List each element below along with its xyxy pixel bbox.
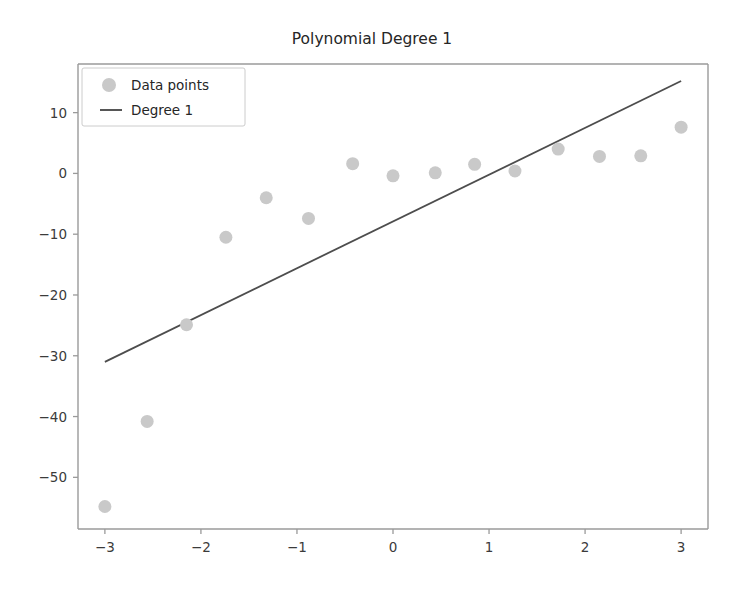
x-tick-label: 3 (677, 539, 686, 555)
x-tick-label: −2 (191, 539, 211, 555)
data-point-marker (634, 149, 647, 162)
data-point-marker (552, 143, 565, 156)
matplotlib-figure: Polynomial Degree 1 −3−2−10123 100−10−20… (0, 0, 735, 589)
x-tick-label: 1 (485, 539, 494, 555)
x-tick-label: −3 (95, 539, 115, 555)
data-point-marker (260, 191, 273, 204)
data-point-marker (141, 415, 154, 428)
data-point-marker (429, 166, 442, 179)
legend-marker-data-points-icon (102, 78, 116, 92)
data-point-marker (180, 318, 193, 331)
data-point-marker (508, 164, 521, 177)
y-tick-label: −40 (39, 409, 68, 425)
x-tick-label: 2 (581, 539, 590, 555)
chart-legend: Data points Degree 1 (82, 68, 245, 126)
data-point-marker (593, 150, 606, 163)
y-tick-label: 0 (58, 165, 67, 181)
legend-label-data-points: Data points (131, 77, 209, 93)
x-tick-label: −1 (287, 539, 307, 555)
legend-label-degree-1: Degree 1 (131, 102, 193, 118)
data-point-marker (346, 157, 359, 170)
y-tick-label: −20 (39, 287, 68, 303)
polynomial-degree-1-chart: Polynomial Degree 1 −3−2−10123 100−10−20… (0, 0, 735, 589)
data-point-marker (468, 158, 481, 171)
chart-title: Polynomial Degree 1 (292, 30, 452, 48)
x-tick-label: 0 (389, 539, 398, 555)
y-tick-label: 10 (50, 105, 67, 121)
y-tick-label: −10 (39, 226, 68, 242)
y-tick-label: −30 (39, 348, 68, 364)
y-tick-label: −50 (39, 469, 68, 485)
data-point-marker (219, 231, 232, 244)
data-point-marker (98, 500, 111, 513)
data-point-marker (302, 212, 315, 225)
data-point-marker (387, 169, 400, 182)
data-point-marker (675, 121, 688, 134)
